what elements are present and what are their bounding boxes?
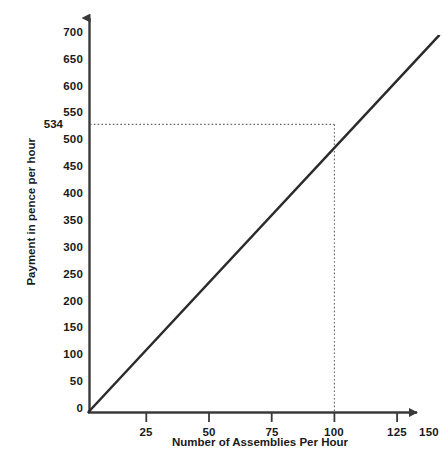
y-tick-label-250: 250	[37, 269, 83, 281]
y-tick-label-450: 450	[37, 161, 83, 173]
y-tick-label-300: 300	[37, 242, 83, 254]
data-series-line	[89, 35, 440, 412]
chart-container: 700 650 600 550 500 450 400 350 300 250 …	[0, 0, 443, 469]
y-tick-label-200: 200	[37, 296, 83, 308]
y-tick-label-500: 500	[37, 134, 83, 146]
y-tick-label-100: 100	[37, 349, 83, 361]
y-tick-label-650: 650	[37, 54, 83, 66]
chart-plot-area	[0, 0, 443, 469]
y-tick-label-600: 600	[37, 81, 83, 93]
bottom-caption	[110, 458, 330, 469]
x-axis-title: Number of Assemblies Per Hour	[100, 437, 420, 449]
y-tick-label-700: 700	[37, 27, 83, 39]
y-tick-label-400: 400	[37, 188, 83, 200]
y-tick-label-350: 350	[37, 215, 83, 227]
annotation-label-534: 534	[17, 119, 63, 131]
x-axis-ticks	[146, 413, 397, 423]
y-axis-title: Payment in pence per hour	[26, 112, 38, 312]
y-tick-label-550: 550	[37, 107, 83, 119]
y-tick-label-50: 50	[37, 376, 83, 388]
plot-clip-mask-right	[406, 0, 443, 35]
y-tick-label-150: 150	[37, 322, 83, 334]
y-tick-label-0: 0	[37, 403, 83, 415]
